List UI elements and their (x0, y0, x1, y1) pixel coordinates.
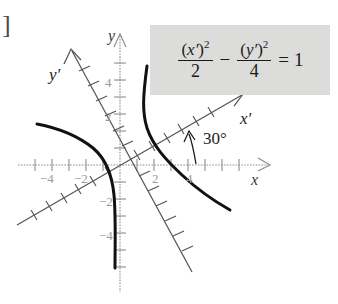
equation-first-numerator: (x′)2 (178, 39, 212, 61)
y-tick-label-neg4: −4 (99, 229, 113, 242)
equation-right-hand-side: 1 (294, 49, 304, 71)
x-prime-axis-label: x′ (240, 110, 251, 127)
x-tick-label-neg4: −4 (40, 172, 54, 185)
x-axis-label: x (251, 172, 258, 188)
equation-second-denominator: 4 (247, 61, 262, 81)
angle-label: 30° (203, 130, 227, 147)
y-tick-label-neg2: −2 (99, 195, 113, 208)
equation-first-num-exp: 2 (204, 38, 210, 50)
hyperbola-curves (37, 66, 230, 268)
equation-first-num-var: x (187, 40, 195, 59)
equation-equals-sign: = (278, 49, 289, 71)
y-prime-axis-label: y′ (49, 66, 60, 83)
angle-arc-path (189, 134, 196, 164)
equation-first-denominator: 2 (188, 61, 203, 81)
y-tick-label-4: 4 (105, 76, 112, 89)
angle-arc-arrow (184, 131, 196, 164)
equation-first-fraction: (x′)2 2 (178, 39, 212, 80)
x-tick-label-2: 2 (152, 172, 159, 185)
hyperbola-figure: ] (0, 0, 338, 304)
equation-operator: − (220, 49, 231, 71)
y-axis-label: y (108, 28, 115, 44)
equation-second-num-exp: 2 (263, 38, 269, 50)
equation-first-num-prime: ′ (195, 40, 199, 59)
x-tick-label-neg2: −2 (74, 172, 88, 185)
equation-display: (x′)2 2 − (y′)2 4 = 1 (150, 25, 330, 95)
equation-second-fraction: (y′)2 4 (237, 39, 271, 80)
y-tick-label-2: 2 (105, 110, 112, 123)
equation-second-numerator: (y′)2 (237, 39, 271, 61)
x-prime-axis-line (17, 95, 242, 225)
equation-second-num-prime: ′ (253, 40, 257, 59)
x-tick-label-4: 4 (186, 172, 193, 185)
